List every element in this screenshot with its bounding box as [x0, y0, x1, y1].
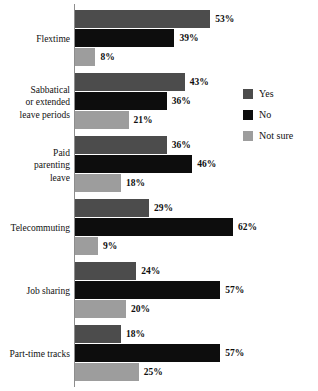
bar-notsure[interactable]: [75, 48, 95, 66]
category-label-line: Paid: [53, 147, 70, 160]
bar-row: 39%: [75, 29, 318, 47]
bar-row: 62%: [75, 218, 318, 236]
bar-value-label: 53%: [215, 10, 234, 28]
bar-value-label: 25%: [144, 363, 163, 381]
bar-value-label: 57%: [225, 281, 244, 299]
legend-swatch-icon: [243, 110, 253, 120]
category-group: Telecommuting29%62%9%: [0, 197, 318, 260]
bar-row: 46%: [75, 155, 318, 173]
category-group: Flextime53%39%8%: [0, 8, 318, 71]
bar-value-label: 62%: [238, 218, 257, 236]
bar-yes[interactable]: [75, 10, 210, 28]
bar-no[interactable]: [75, 29, 174, 47]
chart-title: [74, 0, 244, 2]
bar-value-label: 18%: [126, 325, 145, 343]
category-label: Paidparentingleave: [0, 134, 70, 197]
category-label-line: Part-time tracks: [10, 348, 70, 361]
bar-value-label: 43%: [190, 73, 209, 91]
legend-label: Yes: [259, 89, 274, 99]
bar-row: 53%: [75, 10, 318, 28]
bar-no[interactable]: [75, 218, 233, 236]
bar-notsure[interactable]: [75, 111, 129, 129]
legend-item[interactable]: No: [243, 107, 317, 123]
legend-item[interactable]: Yes: [243, 86, 317, 102]
category-label: Job sharing: [0, 260, 70, 323]
legend-label: Not sure: [259, 131, 293, 141]
bar-row: 9%: [75, 237, 318, 255]
bar-chart: Flextime53%39%8%Sabbaticalor extendedlea…: [0, 0, 318, 391]
bar-yes[interactable]: [75, 325, 121, 343]
legend-item[interactable]: Not sure: [243, 128, 317, 144]
bar-row: 24%: [75, 262, 318, 280]
bar-yes[interactable]: [75, 136, 167, 154]
bar-group: 18%57%25%: [75, 323, 318, 386]
bar-row: 8%: [75, 48, 318, 66]
category-label-line: leave: [50, 172, 70, 185]
bar-no[interactable]: [75, 92, 167, 110]
bar-row: 25%: [75, 363, 318, 381]
plot-area: Flextime53%39%8%Sabbaticalor extendedlea…: [0, 8, 318, 388]
bar-notsure[interactable]: [75, 237, 98, 255]
category-label-line: or extended: [25, 96, 70, 109]
bar-row: 18%: [75, 174, 318, 192]
category-group: Part-time tracks18%57%25%: [0, 323, 318, 386]
category-label: Sabbaticalor extendedleave periods: [0, 71, 70, 134]
legend-label: No: [259, 110, 271, 120]
bar-notsure[interactable]: [75, 174, 121, 192]
bar-group: 53%39%8%: [75, 8, 318, 71]
legend-swatch-icon: [243, 131, 253, 141]
legend-swatch-icon: [243, 89, 253, 99]
bar-yes[interactable]: [75, 73, 185, 91]
bar-row: 20%: [75, 300, 318, 318]
bar-value-label: 36%: [172, 136, 191, 154]
bar-value-label: 46%: [197, 155, 216, 173]
bar-group: 29%62%9%: [75, 197, 318, 260]
category-group: Job sharing24%57%20%: [0, 260, 318, 323]
bar-notsure[interactable]: [75, 300, 126, 318]
bar-value-label: 21%: [134, 111, 153, 129]
bar-yes[interactable]: [75, 262, 136, 280]
category-label-line: parenting: [34, 159, 70, 172]
category-label-line: Job sharing: [26, 285, 70, 298]
category-label: Telecommuting: [0, 197, 70, 260]
category-label-line: Telecommuting: [11, 222, 71, 235]
category-label-line: Flextime: [36, 33, 70, 46]
bar-value-label: 9%: [103, 237, 117, 255]
bar-value-label: 24%: [141, 262, 160, 280]
bar-row: 29%: [75, 199, 318, 217]
bar-no[interactable]: [75, 155, 192, 173]
bar-no[interactable]: [75, 344, 220, 362]
chart-legend: YesNoNot sure: [243, 86, 317, 149]
bar-value-label: 18%: [126, 174, 145, 192]
bar-value-label: 29%: [154, 199, 173, 217]
bar-row: 57%: [75, 281, 318, 299]
bar-value-label: 36%: [172, 92, 191, 110]
category-label-line: leave periods: [20, 109, 70, 122]
category-label: Flextime: [0, 8, 70, 71]
bar-row: 57%: [75, 344, 318, 362]
bar-yes[interactable]: [75, 199, 149, 217]
bar-notsure[interactable]: [75, 363, 139, 381]
bar-value-label: 8%: [100, 48, 114, 66]
bar-value-label: 39%: [179, 29, 198, 47]
bar-value-label: 57%: [225, 344, 244, 362]
bar-group: 24%57%20%: [75, 260, 318, 323]
category-label-line: Sabbatical: [30, 84, 70, 97]
bar-no[interactable]: [75, 281, 220, 299]
bar-value-label: 20%: [131, 300, 150, 318]
bar-row: 18%: [75, 325, 318, 343]
category-label: Part-time tracks: [0, 323, 70, 386]
